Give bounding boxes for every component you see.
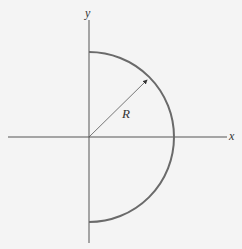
diagram-canvas [0, 0, 242, 249]
y-axis-label: y [85, 7, 90, 19]
radius-arrow [89, 80, 147, 137]
x-axis-label: x [229, 130, 234, 142]
radius-label: R [122, 107, 130, 120]
semicircle-diagram: y x R [0, 0, 242, 249]
